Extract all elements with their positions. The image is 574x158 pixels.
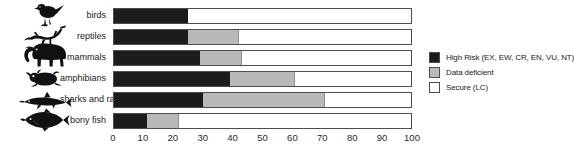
x-tick-label: 70 (317, 132, 328, 143)
category-label: amphibians (60, 68, 106, 89)
table-row: bony fish (0, 110, 420, 131)
segment-data-deficient (147, 114, 180, 128)
table-row: amphibians (0, 68, 420, 89)
bar-track (113, 92, 412, 108)
segment-high-risk (114, 93, 203, 107)
segment-high-risk (114, 114, 147, 128)
x-tick-label: 50 (257, 132, 268, 143)
x-tick-label: 100 (404, 132, 420, 143)
x-tick-label: 0 (110, 132, 115, 143)
segment-high-risk (114, 30, 188, 44)
legend-label: Secure (LC) (446, 83, 488, 92)
legend-swatch-secure (429, 82, 440, 93)
bar-track (113, 8, 412, 24)
bar-track (113, 113, 412, 129)
legend-swatch-high-risk (429, 52, 440, 63)
category-label: birds (60, 5, 106, 26)
category-label: mammals (60, 47, 106, 68)
segment-data-deficient (203, 93, 325, 107)
legend-item-high-risk: High Risk (EX, EW, CR, EN, VU, NT) (429, 50, 571, 64)
table-row: reptiles (0, 26, 420, 47)
legend-item-secure: Secure (LC) (429, 80, 571, 94)
x-tick-label: 90 (377, 132, 388, 143)
segment-high-risk (114, 9, 188, 23)
segment-high-risk (114, 72, 230, 86)
bar-track (113, 50, 412, 66)
segment-high-risk (114, 51, 200, 65)
category-label: sharks and rays (60, 89, 106, 110)
x-tick-label: 40 (227, 132, 238, 143)
table-row: mammals (0, 47, 420, 68)
segment-data-deficient (230, 72, 295, 86)
x-tick-label: 80 (347, 132, 358, 143)
legend: High Risk (EX, EW, CR, EN, VU, NT) Data … (429, 50, 571, 95)
chart-rows: birds (0, 5, 420, 131)
legend-label: Data deficient (446, 68, 494, 77)
x-tick-label: 10 (138, 132, 149, 143)
x-axis: 0 10 20 30 40 50 60 70 80 90 100 (113, 132, 412, 152)
x-tick-label: 20 (168, 132, 179, 143)
legend-swatch-data-deficient (429, 67, 440, 78)
x-tick-label: 30 (197, 132, 208, 143)
table-row: birds (0, 5, 420, 26)
segment-data-deficient (188, 30, 238, 44)
legend-label: High Risk (EX, EW, CR, EN, VU, NT) (446, 53, 574, 62)
bar-track (113, 71, 412, 87)
category-label: reptiles (60, 26, 106, 47)
legend-item-data-deficient: Data deficient (429, 65, 571, 79)
category-label: bony fish (60, 110, 106, 131)
table-row: sharks and rays (0, 89, 420, 110)
bar-track (113, 29, 412, 45)
x-tick-label: 60 (287, 132, 298, 143)
segment-data-deficient (200, 51, 242, 65)
